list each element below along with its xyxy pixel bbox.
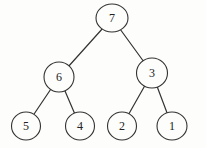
tree-node-7: 7: [96, 4, 128, 32]
tree-node-1: 1: [157, 112, 187, 140]
node-label-3: 3: [149, 66, 155, 80]
node-label-5: 5: [23, 119, 29, 133]
node-label-7: 7: [109, 11, 115, 25]
node-label-1: 1: [169, 119, 175, 133]
tree-node-3: 3: [137, 58, 168, 88]
node-label-2: 2: [119, 119, 125, 133]
tree-node-6: 6: [44, 62, 74, 92]
binary-tree-diagram: 7635421: [0, 0, 206, 148]
node-label-4: 4: [77, 119, 83, 133]
tree-node-4: 4: [66, 112, 95, 140]
node-label-6: 6: [56, 70, 62, 84]
tree-svg: 7635421: [0, 0, 206, 148]
tree-node-2: 2: [108, 112, 137, 140]
tree-node-5: 5: [12, 112, 41, 140]
